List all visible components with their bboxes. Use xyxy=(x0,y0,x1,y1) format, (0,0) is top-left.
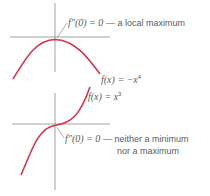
top-leader-line xyxy=(57,23,67,38)
top-annotation-text: — a local maximum xyxy=(106,18,185,28)
top-function-label: f(x) = −x4 xyxy=(101,72,141,85)
top-annotation: f″(0) = 0 — a local maximum xyxy=(68,18,185,28)
top-curve xyxy=(13,40,100,80)
bottom-curve xyxy=(21,87,90,175)
top-annotation-formula: f″(0) = 0 xyxy=(68,17,103,28)
bottom-leader-line xyxy=(57,127,64,138)
bottom-annotation-line2: nor a maximum xyxy=(117,146,179,156)
bottom-annotation-formula: f″(0) = 0 xyxy=(65,133,100,144)
bottom-function-label: f(x) = x3 xyxy=(88,89,121,102)
bottom-annotation-line1: — neither a minimum xyxy=(103,134,189,144)
bottom-annotation: f″(0) = 0 — neither a minimum xyxy=(65,134,188,144)
